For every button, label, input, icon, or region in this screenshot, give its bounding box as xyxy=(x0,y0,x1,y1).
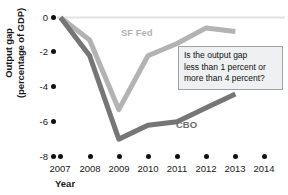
x-tick-dot-2013 xyxy=(233,154,238,159)
output-gap-chart: Output gap (percentage of GDP) 0 -2 -4 -… xyxy=(0,0,288,195)
x-tick-dot-2012 xyxy=(204,154,209,159)
x-tick-label-2007: 2007 xyxy=(43,163,77,174)
callout-line-2: less than 1 percent or xyxy=(184,62,277,74)
x-axis-title: Year xyxy=(55,178,75,189)
series-label-sf-fed: SF Fed xyxy=(121,27,153,38)
callout-line-3: more than 4 percent? xyxy=(184,73,277,85)
x-tick-dot-2007 xyxy=(58,154,63,159)
x-tick-dot-2010 xyxy=(146,154,151,159)
callout-line-1: Is the output gap xyxy=(184,50,277,62)
x-tick-dot-2011 xyxy=(175,154,180,159)
series-label-cbo: CBO xyxy=(176,119,197,130)
x-tick-dot-2009 xyxy=(117,154,122,159)
x-tick-dot-2014 xyxy=(262,154,267,159)
x-tick-dot-2008 xyxy=(88,154,93,159)
x-tick-label-2014: 2014 xyxy=(247,163,281,174)
question-callout: Is the output gap less than 1 percent or… xyxy=(178,46,283,90)
